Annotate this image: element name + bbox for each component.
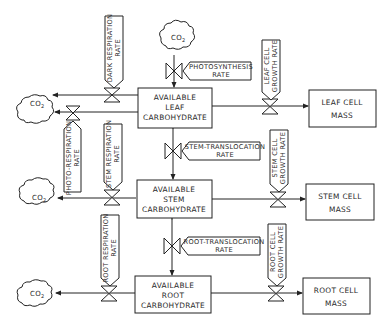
svg-text:STEM RESPIRATION: STEM RESPIRATION xyxy=(105,120,113,188)
svg-text:LEAF CELL: LEAF CELL xyxy=(321,98,363,107)
leaf-carbohydrate-pool: AVAILABLE LEAF CARBOHYDRATE xyxy=(138,88,212,128)
root-translocation-rate-tag: ROOT-TRANSLOCATION RATE xyxy=(181,237,264,255)
photo-respiration-rate-tag: PHOTO-RESPIRATION RATE xyxy=(64,121,81,195)
svg-text:MASS: MASS xyxy=(331,111,353,120)
leaf-growth-rate-tag: LEAF CELL GROWTH RATE xyxy=(262,40,280,100)
svg-text:GROWTH RATE: GROWTH RATE xyxy=(271,40,279,92)
leaf-cell-mass: LEAF CELL MASS xyxy=(309,90,376,127)
svg-text:AVAILABLE: AVAILABLE xyxy=(152,281,194,290)
svg-text:RATE: RATE xyxy=(113,145,121,163)
svg-text:CARBOHYDRATE: CARBOHYDRATE xyxy=(143,113,207,122)
svg-text:RATE: RATE xyxy=(212,71,230,79)
stem-respiration-rate-tag: STEM RESPIRATION RATE xyxy=(104,120,122,190)
svg-text:PHOTO-RESPIRATION: PHOTO-RESPIRATION xyxy=(65,121,73,195)
svg-text:GROWTH RATE: GROWTH RATE xyxy=(277,226,285,278)
svg-text:CARBOHYDRATE: CARBOHYDRATE xyxy=(142,205,206,214)
svg-text:ROOT-TRANSLOCATION: ROOT-TRANSLOCATION xyxy=(184,238,265,246)
stem-translocation-rate-tag: STEM-TRANSLOCATION RATE xyxy=(182,142,265,160)
co2-cloud-root: CO2 xyxy=(17,280,52,307)
svg-text:RATE: RATE xyxy=(114,39,122,57)
svg-text:RATE: RATE xyxy=(216,151,234,159)
co2-cloud-top: CO2 xyxy=(160,20,195,49)
svg-text:GROWTH RATE: GROWTH RATE xyxy=(279,132,287,184)
svg-text:RATE: RATE xyxy=(73,149,81,167)
svg-text:MASS: MASS xyxy=(325,299,347,308)
svg-text:LEAF: LEAF xyxy=(165,103,184,112)
svg-text:STEM-TRANSLOCATION: STEM-TRANSLOCATION xyxy=(185,143,266,151)
svg-text:STEM: STEM xyxy=(163,195,184,204)
photosynthesis-rate-tag: PHOTOSYNTHESIS RATE xyxy=(183,62,253,80)
svg-text:ROOT: ROOT xyxy=(162,291,185,300)
svg-text:STEM CELL: STEM CELL xyxy=(318,192,362,201)
root-growth-rate-tag: ROOT CELL GROWTH RATE xyxy=(268,224,286,286)
stem-growth-rate-tag: STEM CELL GROWTH RATE xyxy=(270,130,288,192)
svg-text:ROOT CELL: ROOT CELL xyxy=(269,232,277,272)
svg-text:AVAILABLE: AVAILABLE xyxy=(153,185,195,194)
svg-text:PHOTOSYNTHESIS: PHOTOSYNTHESIS xyxy=(189,63,253,71)
root-respiration-rate-tag: ROOT RESPIRATION RATE xyxy=(101,213,119,286)
svg-text:CARBOHYDRATE: CARBOHYDRATE xyxy=(141,301,205,310)
svg-text:ROOT CELL: ROOT CELL xyxy=(314,286,359,295)
svg-text:LEAF CELL: LEAF CELL xyxy=(263,47,271,84)
co2-cloud-leaf: CO2 xyxy=(17,95,54,124)
carbohydrate-flow-diagram: CO2 CO2 CO2 CO2 AVAILABLE LE xyxy=(0,0,389,329)
svg-text:DARK RESPIRATION: DARK RESPIRATION xyxy=(106,14,114,83)
svg-text:ROOT RESPIRATION: ROOT RESPIRATION xyxy=(102,213,110,282)
svg-text:MASS: MASS xyxy=(329,205,351,214)
root-cell-mass: ROOT CELL MASS xyxy=(303,278,370,314)
svg-text:STEM CELL: STEM CELL xyxy=(271,138,279,177)
root-carbohydrate-pool: AVAILABLE ROOT CARBOHYDRATE xyxy=(135,276,211,313)
stem-cell-mass: STEM CELL MASS xyxy=(306,184,374,220)
svg-text:RATE: RATE xyxy=(215,246,233,254)
photo-respiration-valve-icon xyxy=(66,106,80,120)
co2-cloud-stem: CO2 xyxy=(19,178,54,205)
stem-carbohydrate-pool: AVAILABLE STEM CARBOHYDRATE xyxy=(137,180,212,218)
svg-text:AVAILABLE: AVAILABLE xyxy=(154,93,196,102)
svg-text:RATE: RATE xyxy=(110,239,118,257)
dark-respiration-rate-tag: DARK RESPIRATION RATE xyxy=(105,14,123,88)
